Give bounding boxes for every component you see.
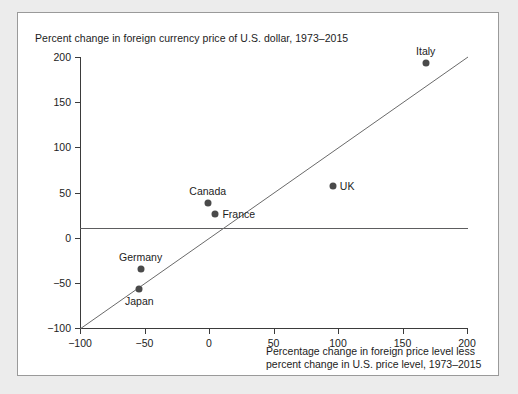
data-point-label-italy: Italy xyxy=(416,45,435,57)
data-point-label-japan: Japan xyxy=(125,295,154,307)
data-point-label-germany: Germany xyxy=(119,251,162,263)
x-axis-caption-line2: percent change in U.S. price level, 1973… xyxy=(266,358,481,371)
x-tick-mark xyxy=(80,329,81,334)
data-point-germany[interactable] xyxy=(137,266,144,273)
x-axis-caption: Percentage change in foreign price level… xyxy=(266,345,481,371)
y-tick-mark xyxy=(75,102,80,103)
y-tick-mark xyxy=(75,238,80,239)
y-tick-label: −100 xyxy=(47,322,71,334)
data-point-canada[interactable] xyxy=(204,200,211,207)
data-point-label-canada: Canada xyxy=(189,185,226,197)
y-tick-mark xyxy=(75,57,80,58)
chart-title: Percent change in foreign currency price… xyxy=(35,32,348,44)
data-point-japan[interactable] xyxy=(136,286,143,293)
data-point-uk[interactable] xyxy=(329,183,336,190)
x-axis-caption-line1: Percentage change in foreign price level… xyxy=(266,345,481,358)
y-tick-mark xyxy=(75,283,80,284)
x-tick-label: 0 xyxy=(206,337,212,349)
data-point-italy[interactable] xyxy=(422,60,429,67)
x-tick-label: −100 xyxy=(68,337,92,349)
y-tick-label: 0 xyxy=(65,232,71,244)
y-tick-label: 50 xyxy=(59,187,71,199)
x-tick-mark xyxy=(338,329,339,334)
plot-area: −100−50050100150200 −100−50050100150200 … xyxy=(80,57,467,328)
data-point-label-uk: UK xyxy=(340,180,355,192)
x-tick-mark xyxy=(209,329,210,334)
x-tick-label: −50 xyxy=(136,337,154,349)
data-point-label-france: France xyxy=(222,208,255,220)
data-point-france[interactable] xyxy=(212,211,219,218)
y-tick-label: 200 xyxy=(53,51,71,63)
x-tick-mark xyxy=(467,329,468,334)
x-tick-mark xyxy=(145,329,146,334)
y-tick-mark xyxy=(75,147,80,148)
y-tick-mark xyxy=(75,193,80,194)
figure-card: Percent change in foreign currency price… xyxy=(17,12,499,376)
y-tick-label: −50 xyxy=(53,277,71,289)
x-tick-mark xyxy=(403,329,404,334)
y-tick-label: 100 xyxy=(53,141,71,153)
y-tick-label: 150 xyxy=(53,96,71,108)
x-tick-mark xyxy=(274,329,275,334)
scatter-chart: Percent change in foreign currency price… xyxy=(18,13,500,377)
